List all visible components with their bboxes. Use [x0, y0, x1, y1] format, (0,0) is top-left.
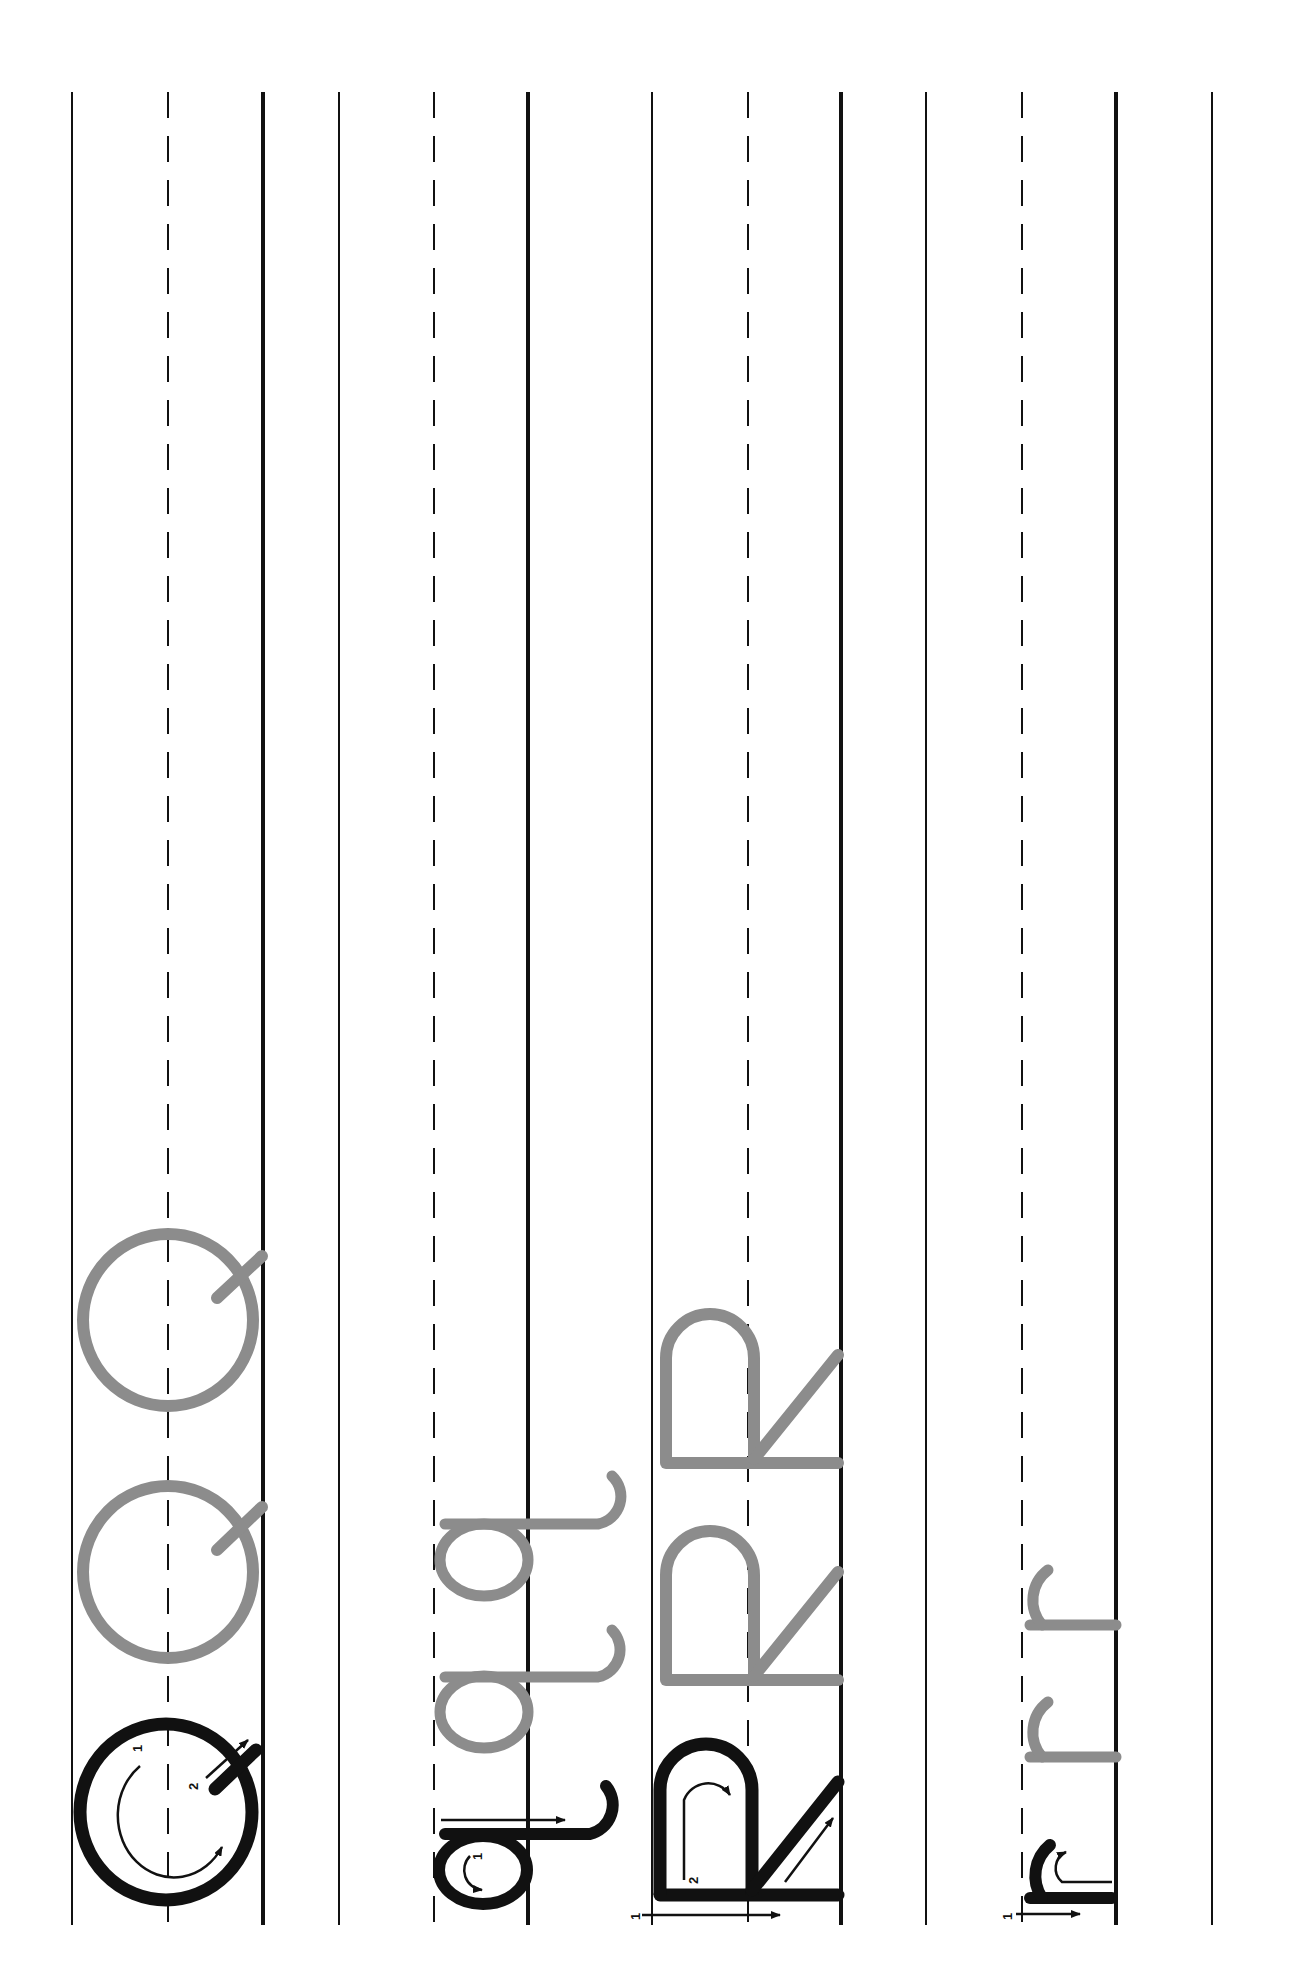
- handwriting-worksheet: 1 2 1: [0, 0, 1316, 1988]
- model-letter-q: 1: [439, 1786, 613, 1904]
- stroke-number-1: 1: [470, 1853, 485, 1860]
- stroke-arrow-1: [464, 1856, 482, 1890]
- stroke-number-1: 1: [628, 1913, 643, 1920]
- trace-letter-q-2: [440, 1476, 621, 1596]
- guide-lines: [72, 92, 1212, 1925]
- trace-letter-r-1: [1030, 1702, 1116, 1757]
- row-lowercase-r: 1: [1000, 1570, 1116, 1920]
- stroke-arrow-1: [118, 1766, 222, 1877]
- stroke-number-1: 1: [1000, 1913, 1015, 1920]
- row-uppercase-r: 1 2: [628, 1314, 838, 1920]
- trace-letter-R-2: [666, 1314, 838, 1463]
- row-uppercase-q: 1 2: [80, 1234, 262, 1900]
- stroke-arrow-hook: [1056, 1852, 1112, 1882]
- stroke-number-2: 2: [186, 1783, 201, 1790]
- stroke-number-2: 2: [686, 1877, 701, 1884]
- trace-letter-R-1: [666, 1531, 838, 1680]
- trace-letter-q-1: [440, 1630, 620, 1748]
- stroke-arrow-2: [684, 1783, 730, 1880]
- trace-letter-r-2: [1030, 1570, 1116, 1625]
- trace-letter-Q-2: [83, 1234, 262, 1406]
- model-letter-r: 1: [1000, 1845, 1112, 1920]
- trace-letter-Q-1: [83, 1486, 262, 1658]
- stroke-number-1: 1: [130, 1745, 145, 1752]
- model-letter-R: 1 2: [628, 1744, 838, 1920]
